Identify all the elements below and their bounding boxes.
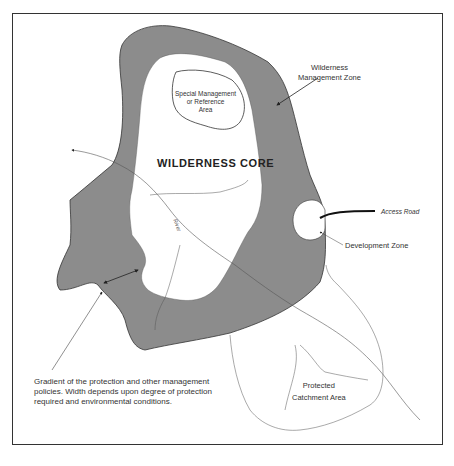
protected-catchment-label: Protected Catchment Area xyxy=(292,380,346,404)
label-line: Management Zone xyxy=(298,73,361,83)
label-line: or Reference xyxy=(175,98,236,106)
label-line: Special Management xyxy=(175,90,236,98)
label-line: Area xyxy=(175,106,236,114)
special-management-label: Special Management or Reference Area xyxy=(175,90,236,114)
label-line: Protected xyxy=(292,380,346,392)
wilderness-management-zone-label: Wilderness Management Zone xyxy=(298,63,361,83)
development-zone-label: Development Zone xyxy=(345,241,408,251)
label-line: Wilderness xyxy=(298,63,361,73)
access-road-label: Access Road xyxy=(381,207,419,217)
wilderness-core-label: WILDERNESS CORE xyxy=(157,157,274,169)
label-line: Catchment Area xyxy=(292,392,346,404)
access-road-line xyxy=(320,211,375,218)
gradient-pointer xyxy=(52,292,102,370)
gradient-note: Gradient of the protection and other man… xyxy=(34,377,224,407)
river-tributary xyxy=(300,345,368,380)
